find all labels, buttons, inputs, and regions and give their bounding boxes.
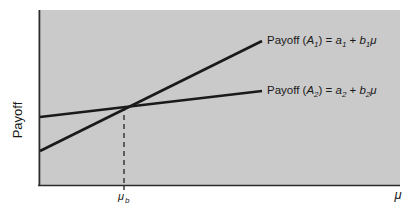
a2-label-mid: ) = — [319, 84, 336, 96]
a2-label-plus: + — [346, 84, 359, 96]
y-axis-title: Payoff — [10, 101, 25, 138]
a1-label-var1: A — [305, 34, 314, 46]
a1-label-mu: μ — [369, 34, 377, 46]
breakeven-tick-sub: b — [125, 196, 130, 205]
a2-label-mu: μ — [369, 84, 377, 96]
a1-label-mid: ) = — [319, 34, 336, 46]
a1-label-prefix: Payoff ( — [267, 34, 307, 46]
chart-figure: Payoff μ μ b Payoff (A1) = a1 + b1μ Payo… — [0, 0, 419, 213]
a2-label-prefix: Payoff ( — [267, 84, 307, 96]
x-axis-title: μ — [393, 187, 401, 202]
breakeven-tick-base: μ — [117, 190, 124, 202]
a1-label-plus: + — [346, 34, 359, 46]
a2-label-var1: A — [305, 84, 314, 96]
